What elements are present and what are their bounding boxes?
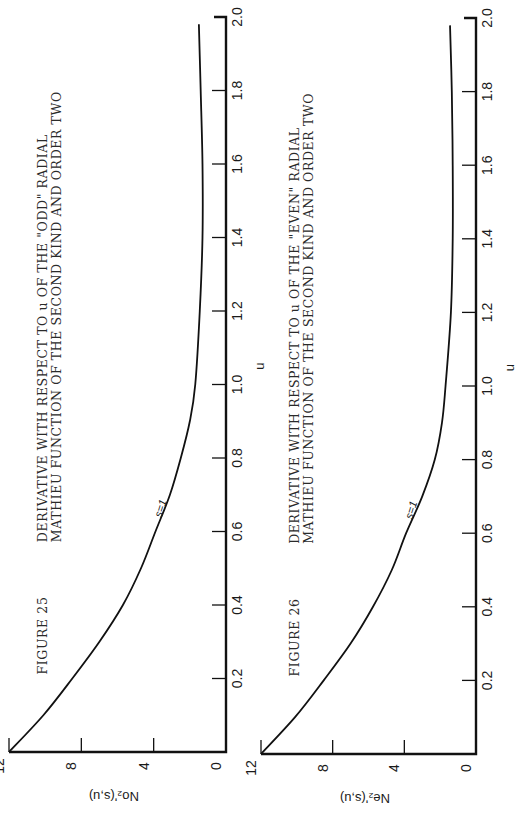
x-tick-label: 1.8 — [229, 81, 245, 101]
curve-label: s=1 — [402, 499, 419, 520]
y-tick-label: 0 — [458, 764, 474, 772]
x-tick-label: 1.0 — [229, 375, 245, 395]
x-axis-label: u — [252, 363, 267, 370]
figure-title-line: DERIVATIVE WITH RESPECT TO u OF THE "ODD… — [35, 134, 50, 542]
figure-title-line: MATHIEU FUNCTION OF THE SECOND KIND AND … — [49, 91, 64, 542]
x-tick-label: 0.2 — [229, 669, 245, 689]
figure-number: FIGURE 26 — [287, 598, 302, 676]
figure-page: 0.20.40.60.81.01.21.41.61.82.004812s=1uN… — [0, 0, 529, 819]
x-tick-label: 1.2 — [479, 302, 495, 322]
x-tick-label: 2.0 — [229, 7, 245, 27]
y-tick-label: 4 — [386, 764, 402, 772]
x-tick-label: 1.4 — [229, 228, 245, 248]
figure-number: FIGURE 25 — [35, 597, 50, 675]
figure-title-line: MATHIEU FUNCTION OF THE SECOND KIND AND … — [301, 93, 316, 544]
x-tick-label: 1.6 — [479, 155, 495, 175]
figure-25-chart: 0.20.40.60.81.01.21.41.61.82.004812s=1uN… — [0, 7, 267, 804]
x-tick-label: 1.8 — [479, 82, 495, 102]
y-tick-label: 0 — [208, 762, 224, 770]
y-tick-label: 8 — [63, 762, 79, 770]
curve-label: s=1 — [152, 498, 169, 519]
y-tick-label: 8 — [315, 764, 331, 772]
y-axis-label: No₂'(s,u) — [89, 789, 139, 804]
x-tick-label: 0.4 — [229, 595, 245, 615]
x-tick-label: 2.0 — [479, 8, 495, 28]
x-axis-label: u — [502, 364, 517, 371]
x-tick-label: 1.2 — [229, 301, 245, 321]
y-axis-label: Ne₂'(s,u) — [340, 791, 390, 806]
x-tick-label: 0.8 — [229, 448, 245, 468]
x-tick-label: 0.6 — [229, 522, 245, 542]
x-tick-label: 0.4 — [479, 597, 495, 617]
y-tick-label: 12 — [0, 758, 7, 774]
x-tick-label: 0.2 — [479, 670, 495, 690]
x-tick-label: 0.6 — [479, 523, 495, 543]
y-tick-label: 4 — [136, 762, 152, 770]
figure-26-chart: 0.20.40.60.81.01.21.41.61.82.004812s=1uN… — [243, 8, 517, 806]
x-tick-label: 1.6 — [229, 154, 245, 174]
y-tick-label: 12 — [243, 760, 259, 776]
x-tick-label: 1.4 — [479, 229, 495, 249]
x-tick-label: 0.8 — [479, 450, 495, 470]
figure-title-line: DERIVATIVE WITH RESPECT TO u OF THE "EVE… — [287, 127, 302, 544]
x-tick-label: 1.0 — [479, 376, 495, 396]
